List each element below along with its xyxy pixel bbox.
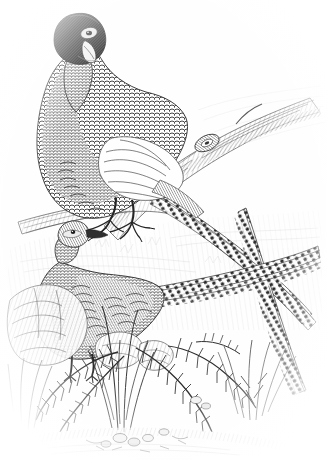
plate-vignette bbox=[0, 0, 327, 460]
engraving-plate: Reeves's Pheasants bbox=[0, 0, 327, 460]
engraving-canvas bbox=[0, 0, 327, 460]
